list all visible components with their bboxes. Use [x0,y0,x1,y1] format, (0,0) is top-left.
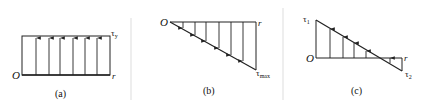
origin-label: O [160,16,168,28]
stress-label: τy [111,28,118,39]
caption: (b) [203,85,215,97]
stress-label: τmax [256,68,270,79]
caption: (a) [55,88,66,100]
panel-b: O r τmax (b) [160,16,270,97]
axis-label: r [404,53,408,63]
stress-arrows [36,38,97,75]
origin-label: O [12,69,20,81]
stress-arrows [183,22,243,61]
shear-stress-diagrams: O r τy (a) O r τmax (b) [0,0,433,112]
panel-c: O r τ1 τ2 (c) [303,14,412,97]
panel-a: O r τy (a) [12,28,118,100]
axis-label: r [112,71,116,81]
caption: (c) [351,85,362,97]
stress-label-2: τ2 [405,69,412,80]
origin-label: O [306,52,314,64]
axis-label: r [258,18,262,28]
stress-label-1: τ1 [303,14,310,25]
